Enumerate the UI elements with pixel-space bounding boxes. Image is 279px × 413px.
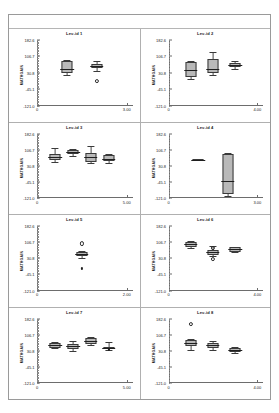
median-line — [66, 152, 80, 153]
y-minor-tick — [169, 273, 171, 274]
y-minor-tick — [169, 276, 171, 277]
y-minor-tick — [169, 372, 171, 373]
y-minor-tick — [37, 142, 39, 143]
y-minor-tick — [169, 331, 171, 332]
y-minor-tick — [169, 51, 171, 52]
y-minor-tick — [169, 282, 171, 283]
y-minor-tick — [169, 81, 171, 82]
median-line — [206, 345, 219, 346]
y-minor-tick — [169, 137, 171, 138]
y-minor-tick — [37, 373, 39, 374]
median-line — [228, 350, 241, 351]
y-minor-tick — [37, 252, 39, 253]
y-minor-tick — [37, 76, 39, 77]
y-minor-tick — [37, 153, 39, 154]
y-tick-label: 30.8 — [27, 70, 37, 75]
y-minor-tick — [37, 330, 39, 331]
y-minor-tick — [37, 79, 39, 80]
y-minor-tick — [37, 96, 39, 97]
outlier-marker — [211, 246, 215, 250]
y-minor-tick — [37, 61, 39, 62]
panel-title: Lev-id 2 — [141, 31, 271, 36]
y-tick-label: 106.7 — [24, 54, 37, 59]
whisker-cap — [87, 345, 94, 346]
panel-title: Lev-id 5 — [9, 217, 140, 222]
y-tick-label: 182.6 — [24, 224, 37, 229]
y-minor-tick — [37, 51, 39, 52]
y-minor-tick — [169, 284, 171, 285]
y-minor-tick — [37, 195, 39, 196]
y-minor-tick — [37, 89, 39, 90]
y-minor-tick — [169, 229, 171, 230]
y-tick-label: 182.6 — [156, 316, 169, 321]
y-minor-tick — [169, 151, 171, 152]
y-minor-tick — [169, 40, 171, 41]
y-axis-label: MATHGAIN — [152, 65, 156, 85]
y-minor-tick — [169, 175, 171, 176]
y-minor-tick — [169, 263, 171, 264]
y-minor-tick — [169, 241, 171, 242]
whisker-cap — [51, 148, 58, 149]
y-minor-tick — [169, 53, 171, 54]
y-minor-tick — [37, 48, 39, 49]
y-minor-tick — [37, 257, 39, 258]
y-minor-tick — [37, 161, 39, 162]
y-minor-tick — [169, 86, 171, 87]
whisker-cap — [51, 162, 58, 163]
panel-6: Lev-id 6MATHGAIN182.6106.730.8-45.1-121.… — [140, 214, 271, 307]
x-max-label: 4.00 — [253, 292, 261, 297]
y-tick-label: 30.8 — [27, 163, 37, 168]
panel-1: Lev-id 1MATHGAIN182.6106.730.8-45.1-121.… — [9, 29, 140, 122]
y-minor-tick — [37, 143, 39, 144]
y-minor-tick — [37, 319, 39, 320]
x-origin-label: 0 — [167, 107, 169, 112]
y-minor-tick — [37, 380, 39, 381]
y-minor-tick — [37, 327, 39, 328]
y-axis-label: MATHGAIN — [20, 343, 24, 363]
x-end-tick — [257, 288, 258, 291]
y-minor-tick — [37, 148, 39, 149]
y-minor-tick — [169, 48, 171, 49]
y-minor-tick — [37, 150, 39, 151]
y-minor-tick — [169, 289, 171, 290]
y-minor-tick — [37, 231, 39, 232]
y-minor-tick — [169, 351, 171, 352]
whisker-cap — [209, 75, 216, 76]
y-minor-tick — [169, 148, 171, 149]
y-minor-tick — [169, 245, 171, 246]
y-minor-tick — [169, 78, 171, 79]
y-axis-label: MATHGAIN — [20, 158, 24, 178]
y-minor-tick — [169, 239, 171, 240]
y-minor-tick — [169, 247, 171, 248]
y-minor-tick — [37, 50, 39, 51]
y-minor-tick — [169, 364, 171, 365]
panel-5: Lev-id 5MATHGAIN182.6106.730.8-45.1-121.… — [9, 214, 140, 307]
y-minor-tick — [169, 154, 171, 155]
whisker-cap — [93, 61, 100, 62]
median-line — [102, 159, 116, 160]
x-max-label: 5.00 — [123, 200, 131, 205]
y-minor-tick — [37, 287, 39, 288]
y-minor-tick — [169, 97, 171, 98]
y-minor-tick — [37, 241, 39, 242]
y-minor-tick — [37, 341, 39, 342]
y-minor-tick — [169, 158, 171, 159]
y-tick-label: 106.7 — [24, 240, 37, 245]
y-minor-tick — [169, 228, 171, 229]
y-tick-label: -45.1 — [25, 272, 37, 277]
y-minor-tick — [37, 250, 39, 251]
x-origin-label: 0 — [36, 292, 38, 297]
extreme-marker — [81, 268, 83, 270]
y-minor-tick — [37, 258, 39, 259]
whisker-cap — [105, 342, 112, 343]
y-minor-tick — [169, 91, 171, 92]
median-line — [191, 160, 204, 161]
y-minor-tick — [37, 348, 39, 349]
x-origin-label: 0 — [36, 107, 38, 112]
y-minor-tick — [37, 349, 39, 350]
whisker-cap — [187, 79, 194, 80]
median-line — [206, 252, 219, 253]
y-minor-tick — [169, 177, 171, 178]
y-minor-tick — [169, 261, 171, 262]
y-minor-tick — [37, 164, 39, 165]
